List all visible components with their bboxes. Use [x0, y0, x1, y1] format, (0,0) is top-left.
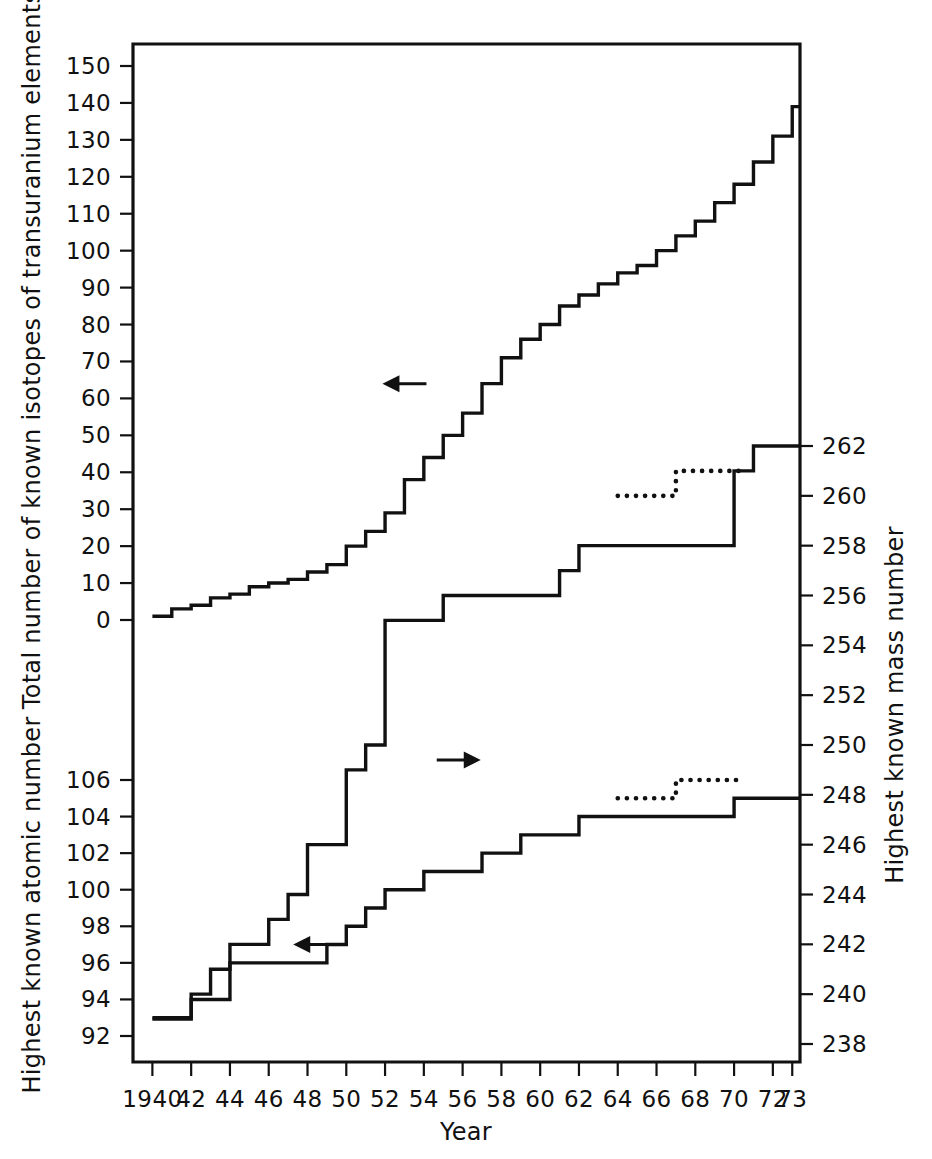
tick-label: 100 [66, 238, 111, 264]
tick-label: 80 [81, 312, 111, 338]
tick-label: 106 [66, 767, 111, 793]
tick-label: 40 [81, 459, 111, 485]
tick-label: 52 [370, 1086, 400, 1112]
tick-label: 90 [81, 275, 111, 301]
tick-label: 60 [81, 385, 111, 411]
tick-label: 150 [66, 53, 111, 79]
tick-label: 58 [486, 1086, 516, 1112]
tick-label: 100 [66, 877, 111, 903]
tick-label: 70 [719, 1086, 749, 1112]
tick-label: 68 [680, 1086, 710, 1112]
tick-label: 244 [822, 882, 867, 908]
tick-label: 256 [822, 583, 867, 609]
tick-label: 64 [603, 1086, 633, 1112]
series-path-atomic_number-tentative [618, 780, 743, 798]
tick-label: 104 [66, 804, 111, 830]
tick-label: 62 [564, 1086, 594, 1112]
tick-label: 56 [448, 1086, 478, 1112]
tick-label: 250 [822, 732, 867, 758]
tick-label: 20 [81, 533, 111, 559]
series-path-isotopes [152, 107, 800, 617]
tick-label: 50 [331, 1086, 361, 1112]
series-path-mass_number [152, 446, 800, 1019]
arrow-head [293, 936, 310, 953]
left-axis-ticks: 0102030405060708090100110120130140150929… [66, 53, 133, 1049]
chart-canvas: 0102030405060708090100110120130140150929… [0, 0, 932, 1159]
tick-label: 70 [81, 348, 111, 374]
series-path-atomic_number [152, 798, 800, 1017]
arrow-atomic [293, 936, 337, 953]
arrow-head [382, 375, 399, 392]
tick-label: 258 [822, 533, 867, 559]
tick-label: 254 [822, 632, 867, 658]
left-axis-title-isotopes: Total number of known isotopes of transu… [18, 0, 46, 710]
tick-label: 252 [822, 682, 867, 708]
tick-label: 54 [409, 1086, 439, 1112]
tick-label: 30 [81, 496, 111, 522]
right-axis-ticks: 238240242244246248250252254256258260262 [800, 433, 867, 1057]
tick-label: 96 [81, 950, 111, 976]
tick-label: 48 [292, 1086, 322, 1112]
tick-label: 140 [66, 90, 111, 116]
tick-label: 42 [176, 1086, 206, 1112]
tick-label: 246 [822, 832, 867, 858]
tick-label: 242 [822, 931, 867, 957]
frame-border [133, 44, 800, 1062]
arrow-head [464, 751, 481, 768]
figure-container: 0102030405060708090100110120130140150929… [0, 0, 932, 1159]
x-axis-ticks: 19404244464850525456586062646668707273 [122, 1062, 807, 1112]
tick-label: 130 [66, 127, 111, 153]
tick-label: 44 [215, 1086, 245, 1112]
tick-label: 110 [66, 201, 111, 227]
series-layer [152, 107, 800, 1019]
arrow-annotations [293, 375, 480, 953]
tick-label: 94 [81, 986, 111, 1012]
tick-label: 262 [822, 433, 867, 459]
tick-label: 102 [66, 840, 111, 866]
tick-label: 120 [66, 164, 111, 190]
tick-label: 240 [822, 981, 867, 1007]
tick-label: 46 [254, 1086, 284, 1112]
arrow-isotopes [382, 375, 426, 392]
series-path-mass_number-tentative [618, 471, 743, 496]
tick-label: 1940 [122, 1086, 182, 1112]
tick-label: 238 [822, 1031, 867, 1057]
tick-label: 92 [81, 1023, 111, 1049]
tick-label: 260 [822, 483, 867, 509]
left-axis-title-atomic-number: Highest known atomic number [18, 716, 46, 1093]
right-axis-title-mass-number: Highest known mass number [881, 526, 909, 884]
arrow-mass [437, 751, 481, 768]
plot-frame [133, 44, 800, 1062]
tick-label: 0 [96, 607, 111, 633]
x-axis-title: Year [439, 1118, 492, 1146]
tick-label: 248 [822, 782, 867, 808]
tick-label: 73 [777, 1086, 807, 1112]
tick-label: 60 [525, 1086, 555, 1112]
tick-label: 66 [641, 1086, 671, 1112]
tick-label: 10 [81, 570, 111, 596]
tick-label: 50 [81, 422, 111, 448]
tick-label: 98 [81, 913, 111, 939]
